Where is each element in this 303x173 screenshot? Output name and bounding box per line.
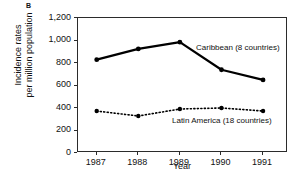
series-annotation-caribbean: Caribbean (8 countries) bbox=[196, 43, 280, 52]
y-axis-tick-label: 1,200 bbox=[31, 13, 71, 22]
y-axis-tick-label: 800 bbox=[31, 58, 71, 67]
data-point-marker bbox=[261, 77, 266, 82]
y-axis-tick-label: 0 bbox=[31, 148, 71, 157]
data-point-marker bbox=[261, 109, 265, 113]
y-axis-tick-label: 1,000 bbox=[31, 35, 71, 44]
y-axis-tick-label: 600 bbox=[31, 80, 71, 89]
data-point-marker bbox=[136, 47, 141, 52]
plot-area bbox=[77, 17, 287, 152]
data-point-marker bbox=[94, 57, 99, 62]
x-axis-tick-mark bbox=[137, 152, 138, 155]
x-axis-tick-mark bbox=[220, 152, 221, 155]
x-axis-title: Year bbox=[77, 161, 287, 171]
y-axis-title-line1: Incidence rates bbox=[13, 0, 24, 115]
data-point-marker bbox=[95, 109, 99, 113]
series-annotation-latin-america: Latin America (18 countries) bbox=[172, 116, 272, 125]
y-axis-tick-mark bbox=[74, 152, 77, 153]
figure-panel-b: B Incidence rates per million population… bbox=[0, 0, 303, 173]
data-point-marker bbox=[219, 106, 223, 110]
x-axis-tick-mark bbox=[96, 152, 97, 155]
x-axis-tick-mark bbox=[262, 152, 263, 155]
data-point-marker bbox=[136, 114, 140, 118]
data-point-marker bbox=[219, 67, 224, 72]
y-axis-tick-label: 400 bbox=[31, 103, 71, 112]
series-canvas bbox=[78, 18, 288, 153]
data-point-marker bbox=[177, 40, 182, 45]
x-axis-tick-mark bbox=[179, 152, 180, 155]
data-point-marker bbox=[178, 107, 182, 111]
y-axis-tick-label: 200 bbox=[31, 125, 71, 134]
